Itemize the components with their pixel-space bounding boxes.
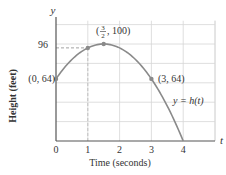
y-axis-symbol: y (50, 4, 56, 16)
annotation-start-point: (0, 64) (28, 73, 55, 85)
annotation-peak-point: ( 3 2 , 100) (96, 24, 130, 40)
data-point (149, 77, 153, 81)
x-axis-symbol: t (220, 134, 224, 146)
data-point (86, 46, 90, 50)
x-tick-labels: 01234 (54, 144, 186, 155)
x-tick-4: 4 (181, 144, 186, 155)
curve-label: y = h(t) (172, 95, 204, 107)
x-tick-3: 3 (149, 144, 154, 155)
annotation-end-point: (3, 64) (158, 73, 185, 85)
height-vs-time-chart: y t 01234 96 Time (seconds) Height (feet… (0, 0, 226, 175)
x-tick-2: 2 (117, 144, 122, 155)
axes (56, 17, 215, 141)
svg-text:3: 3 (101, 24, 105, 32)
grid-lines (56, 21, 215, 141)
svg-text:2: 2 (101, 32, 105, 40)
x-tick-0: 0 (54, 144, 59, 155)
x-axis-label: Time (seconds) (89, 157, 151, 169)
guide-lines (56, 48, 88, 141)
svg-text:, 100): , 100) (107, 25, 130, 37)
x-tick-1: 1 (85, 144, 90, 155)
data-point (102, 42, 106, 46)
svg-text:(: ( (96, 25, 100, 37)
y-tick-96: 96 (38, 39, 48, 50)
y-axis-label: Height (feet) (7, 69, 19, 123)
